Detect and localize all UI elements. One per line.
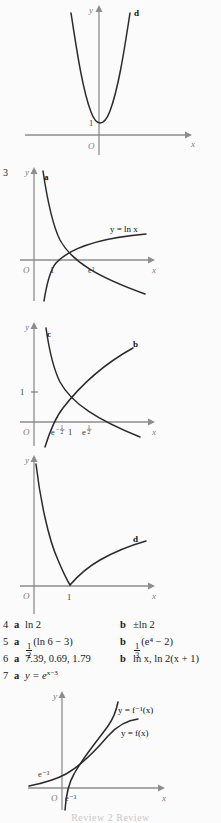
x-tick-label-1: 1 <box>67 592 71 602</box>
origin-label: O <box>23 427 30 437</box>
curve-label-b: b <box>133 339 138 349</box>
answers-list: 4 a ln 2 b ±ln 2 5 a 1 2 (ln 6 − 3) b 1 … <box>0 616 221 684</box>
page-footer: Review 2 Review <box>0 812 221 823</box>
curve-c <box>46 328 140 437</box>
y-axis-arrow <box>59 691 66 698</box>
answer-part-a-label-6: a <box>14 650 25 667</box>
equation-label-f-inverse: y = f⁻¹(x) <box>118 705 153 715</box>
figure-inverse: y = f⁻¹(x) y = f(x) y x O e⁻³ e⁻³ <box>0 688 221 813</box>
y-axis-label: y <box>24 322 29 332</box>
curve-d-left <box>36 464 70 585</box>
curve-label-d: d <box>134 8 139 18</box>
curve-lnx <box>44 234 146 301</box>
equation-label-lnx: y = ln x <box>110 224 138 234</box>
x-tick-label-1: 1 <box>50 265 54 275</box>
answer-page: d y x O 1 3 a y = ln x y x O 1 e² <box>0 0 221 823</box>
origin-label: O <box>23 265 30 275</box>
question-number-3: 3 <box>3 167 8 178</box>
y-axis-arrow <box>31 167 38 174</box>
x-tick-label-e-neg-3: e⁻³ <box>65 793 77 803</box>
answer-part-a-exponent-7: x−3 <box>47 669 58 677</box>
answer-number-4: 4 <box>0 616 14 633</box>
answer-part-b-value-6: ln x, ln 2(x + 1) <box>133 650 221 667</box>
curve-label-c: c <box>47 329 51 339</box>
x-axis-arrow <box>148 419 155 426</box>
answer-part-a-value-6: 7.39, 0.69, 1.79 <box>25 650 120 667</box>
answer-row-6: 6 a 7.39, 0.69, 1.79 b ln x, ln 2(x + 1) <box>0 650 221 667</box>
answer-part-b-label-6: b <box>120 650 133 667</box>
curve-d-right <box>70 541 146 585</box>
svg-text:e: e <box>82 427 86 437</box>
x-tick-label-e-pos-half: e 1 2 <box>82 424 92 438</box>
origin-label: O <box>51 793 58 803</box>
x-tick-label-e2: e² <box>88 265 95 275</box>
curve-d <box>71 13 130 123</box>
answer-part-b-value-4: ±ln 2 <box>133 616 221 633</box>
answer-part-a-text-7: y = e <box>25 670 47 681</box>
answer-part-b-text-5: (e⁴ − 2) <box>141 636 173 647</box>
svg-text:e: e <box>51 427 55 437</box>
answer-part-a-label-7: a <box>14 667 25 684</box>
x-axis-label: x <box>151 427 156 437</box>
y-axis-label: y <box>24 455 29 465</box>
svg-text:−: − <box>56 426 60 432</box>
equation-label-f: y = f(x) <box>121 728 149 738</box>
x-axis-label: x <box>161 793 166 803</box>
answer-number-5: 5 <box>0 633 14 650</box>
curve-label-d: d <box>133 534 138 544</box>
x-axis-arrow <box>148 257 155 264</box>
y-axis-arrow <box>96 5 103 12</box>
x-axis-arrow <box>148 583 155 590</box>
y-axis-label: y <box>24 167 29 177</box>
x-axis-arrow <box>185 132 192 139</box>
answer-part-b-label-4: b <box>120 616 133 633</box>
svg-text:2: 2 <box>61 429 64 435</box>
x-axis-label: x <box>151 591 156 601</box>
answer-part-a-label-5: a <box>14 633 25 650</box>
answer-part-a-value-4: ln 2 <box>25 616 120 633</box>
y-axis-arrow <box>31 322 38 329</box>
figure-lnx-a: 3 a y = ln x y x O 1 e² <box>0 158 221 304</box>
y-axis-label: y <box>88 5 93 15</box>
origin-label: O <box>23 591 30 601</box>
answer-number-6: 6 <box>0 650 14 667</box>
x-axis-label: x <box>151 265 156 275</box>
y-axis-arrow <box>31 455 38 462</box>
answer-part-b-label-5: b <box>120 633 133 650</box>
y-tick-label-1: 1 <box>89 118 93 128</box>
answer-number-7: 7 <box>0 667 14 684</box>
curve-label-a: a <box>44 172 49 182</box>
answer-part-a-label-4: a <box>14 616 25 633</box>
origin-label: O <box>88 141 95 151</box>
answer-part-a-value-7: y = ex−3 <box>25 667 120 684</box>
x-axis-arrow <box>158 785 165 792</box>
figure-parabola-d: d y x O 1 <box>0 0 221 158</box>
y-tick-label-e-neg-3: e⁻³ <box>38 769 50 779</box>
x-tick-label-1: 1 <box>68 427 72 437</box>
answer-row-7: 7 a y = ex−3 <box>0 667 221 684</box>
answer-row-4: 4 a ln 2 b ±ln 2 <box>0 616 221 633</box>
x-axis-label: x <box>190 139 195 149</box>
answer-part-a-text-5: (ln 6 − 3) <box>33 636 72 647</box>
figure-d2: d y x O 1 <box>0 448 221 616</box>
svg-text:2: 2 <box>88 429 91 435</box>
answer-row-5: 5 a 1 2 (ln 6 − 3) b 1 3 (e⁴ − 2) <box>0 633 221 650</box>
figure-bc: 1 c b y x O e − 1 2 1 e 1 2 <box>0 304 221 448</box>
y-tick-label-1: 1 <box>20 387 24 397</box>
y-axis-label: y <box>52 691 57 701</box>
